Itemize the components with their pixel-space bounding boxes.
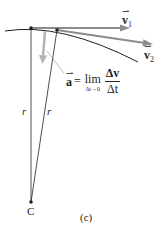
vector-arrow-icon: ⇀ [66, 69, 74, 78]
radius-label-2: r [47, 106, 51, 117]
equals-sign: = [74, 74, 81, 89]
radius-label-1: r [22, 106, 26, 117]
point-1 [29, 26, 33, 30]
v2-arrow-shaft [57, 30, 145, 43]
acceleration-symbol: ⇀a [66, 76, 72, 88]
acceleration-formula: ⇀a = lim Δt→0 Δv Δt [66, 66, 120, 97]
limit-operator: lim Δt→0 [85, 72, 101, 92]
acceleration-arrow-shaft [43, 31, 45, 56]
circular-path-arc [5, 29, 138, 62]
figure-caption: (c) [80, 212, 92, 223]
acceleration-arrowhead-icon [39, 55, 47, 64]
v1-label: ⇀v1 [122, 14, 132, 29]
vector-arrow-icon: ⇀ [144, 42, 152, 51]
v2-label: ⇀v2 [144, 49, 154, 64]
vector-arrow-icon: ⇀ [122, 7, 130, 16]
fraction: Δv Δt [105, 66, 121, 97]
lim-text: lim [85, 72, 101, 87]
lim-subscript: Δt→0 [86, 86, 101, 92]
point-2 [55, 28, 59, 32]
center-label: C [27, 206, 34, 217]
center-point [29, 200, 33, 204]
acceleration-leader-line [47, 51, 64, 73]
numerator: Δv [105, 66, 121, 82]
denominator: Δt [107, 82, 118, 97]
